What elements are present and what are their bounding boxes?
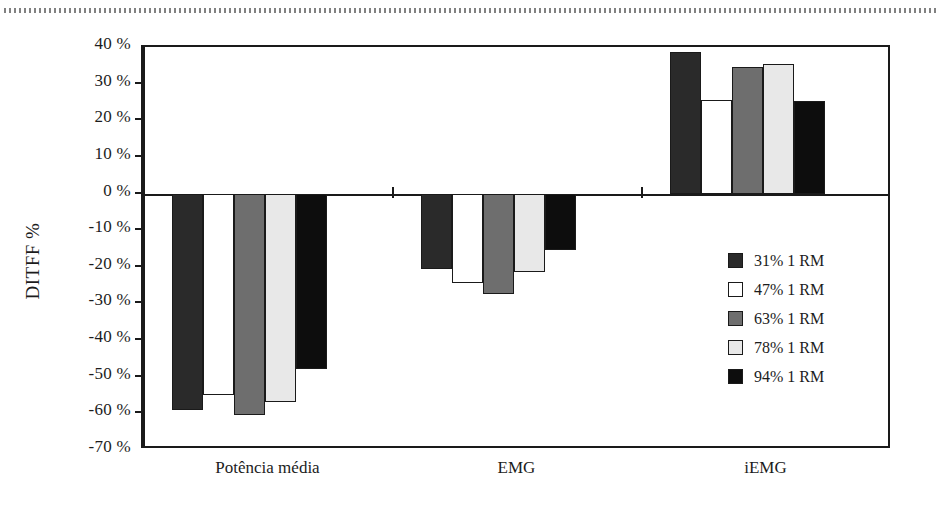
- y-axis-tick-label: -30 %: [59, 290, 131, 310]
- legend-swatch-icon: [728, 369, 743, 384]
- y-axis-tick-label: 10 %: [59, 144, 131, 164]
- x-axis-group-tick: [392, 187, 394, 198]
- bar-potência-média-471rm: [203, 194, 234, 396]
- y-axis-tick-label: -60 %: [59, 400, 131, 420]
- legend-item-label: 31% 1 RM: [754, 252, 824, 270]
- bar-potência-média-781rm: [265, 194, 296, 403]
- legend-item: 78% 1 RM: [728, 333, 878, 362]
- y-axis-tick: [135, 82, 145, 84]
- y-axis-tick-label: 30 %: [59, 71, 131, 91]
- y-axis-title: DITFF %: [22, 201, 44, 321]
- y-axis-tick: [135, 301, 145, 303]
- legend-item-label: 78% 1 RM: [754, 339, 824, 357]
- y-axis-tick-label: -20 %: [59, 254, 131, 274]
- bar-potência-média-941rm: [296, 194, 327, 370]
- legend-item: 47% 1 RM: [728, 275, 878, 304]
- bar-potência-média-311rm: [172, 194, 203, 410]
- bar-emg-941rm: [545, 194, 576, 251]
- chart-legend: 31% 1 RM47% 1 RM63% 1 RM78% 1 RM94% 1 RM: [728, 246, 878, 391]
- bar-iemg-311rm: [670, 52, 701, 193]
- y-axis-tick-label: -50 %: [59, 364, 131, 384]
- y-axis-tick-label: -10 %: [59, 217, 131, 237]
- y-axis-tick-label: 40 %: [59, 34, 131, 54]
- bar-emg-311rm: [421, 194, 452, 269]
- y-axis-labels: 40 %30 %20 %10 %0 %-10 %-20 %-30 %-40 %-…: [0, 0, 131, 523]
- y-axis-tick: [135, 375, 145, 377]
- legend-swatch-icon: [728, 340, 743, 355]
- bar-potência-média-631rm: [234, 194, 265, 416]
- legend-item: 63% 1 RM: [728, 304, 878, 333]
- bar-iemg-941rm: [794, 101, 825, 194]
- legend-item-label: 94% 1 RM: [754, 368, 824, 386]
- y-axis-tick-zero: [135, 192, 145, 194]
- x-axis-category-label: iEMG: [641, 458, 890, 478]
- legend-item-label: 47% 1 RM: [754, 281, 824, 299]
- legend-swatch-icon: [728, 253, 743, 268]
- y-axis-tick: [135, 155, 145, 157]
- bar-iemg-471rm: [701, 100, 732, 193]
- y-axis-tick: [135, 265, 145, 267]
- legend-swatch-icon: [728, 311, 743, 326]
- x-axis-category-label: Potência média: [143, 458, 392, 478]
- bar-emg-781rm: [514, 194, 545, 273]
- y-axis-tick-label: 0 %: [59, 181, 131, 201]
- y-axis-tick: [135, 228, 145, 230]
- y-axis-tick-label: 20 %: [59, 107, 131, 127]
- x-axis-category-label: EMG: [392, 458, 641, 478]
- y-axis-tick: [135, 118, 145, 120]
- y-axis-tick-label: -70 %: [59, 437, 131, 457]
- legend-item-label: 63% 1 RM: [754, 310, 824, 328]
- bar-emg-631rm: [483, 194, 514, 295]
- x-axis-group-tick: [641, 187, 643, 198]
- bar-emg-471rm: [452, 194, 483, 284]
- bar-iemg-781rm: [763, 64, 794, 193]
- legend-item: 31% 1 RM: [728, 246, 878, 275]
- y-axis-tick: [135, 411, 145, 413]
- legend-item: 94% 1 RM: [728, 362, 878, 391]
- y-axis-tick: [135, 338, 145, 340]
- bar-iemg-631rm: [732, 67, 763, 193]
- legend-swatch-icon: [728, 282, 743, 297]
- y-axis-tick-label: -40 %: [59, 327, 131, 347]
